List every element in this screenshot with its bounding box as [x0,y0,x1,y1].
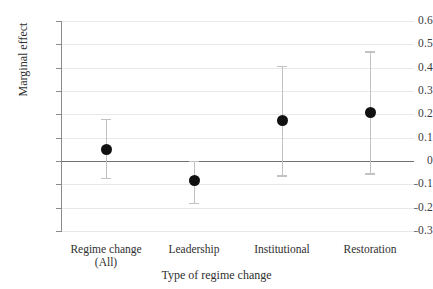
gridline [62,114,414,115]
x-tick-label: Leadership [168,243,219,256]
data-point-marker [277,115,288,126]
gridline [62,21,414,22]
error-bar-cap-upper [365,51,375,52]
x-tick-label: Regime change (All) [70,243,141,269]
plot-area [62,21,414,231]
x-tick-label: Restoration [343,243,396,256]
y-tick-mark [56,68,61,69]
error-bar-cap-upper [277,66,287,67]
y-tick-mark [56,208,61,209]
error-bar-cap-lower [101,178,111,179]
y-tick-mark [56,161,61,162]
y-tick-mark [56,44,61,45]
data-point-marker [101,144,112,155]
error-bar-cap-upper [189,161,199,162]
x-axis-title: Type of regime change [0,268,433,283]
error-bar-cap-lower [277,175,287,176]
error-bar-cap-lower [189,203,199,204]
gridline [62,231,414,232]
y-axis-title: Marginal effect [16,0,31,125]
error-bar-cap-lower [365,173,375,174]
y-tick-mark [56,21,61,22]
x-tick-label: Institutional [254,243,310,256]
gridline [62,184,414,185]
gridline [62,138,414,139]
error-bar-cap-upper [101,119,111,120]
y-tick-mark [56,114,61,115]
y-tick-mark [56,231,61,232]
gridline [62,68,414,69]
data-point-marker [189,175,200,186]
y-tick-mark [56,184,61,185]
data-point-marker [365,107,376,118]
gridline [62,44,414,45]
gridline [62,208,414,209]
y-tick-mark [56,138,61,139]
zero-reference-line [62,161,414,162]
y-tick-mark [56,91,61,92]
marginal-effects-chart: Marginal effect 0.60.50.40.30.20.10–0.1–… [0,0,433,289]
gridline [62,91,414,92]
